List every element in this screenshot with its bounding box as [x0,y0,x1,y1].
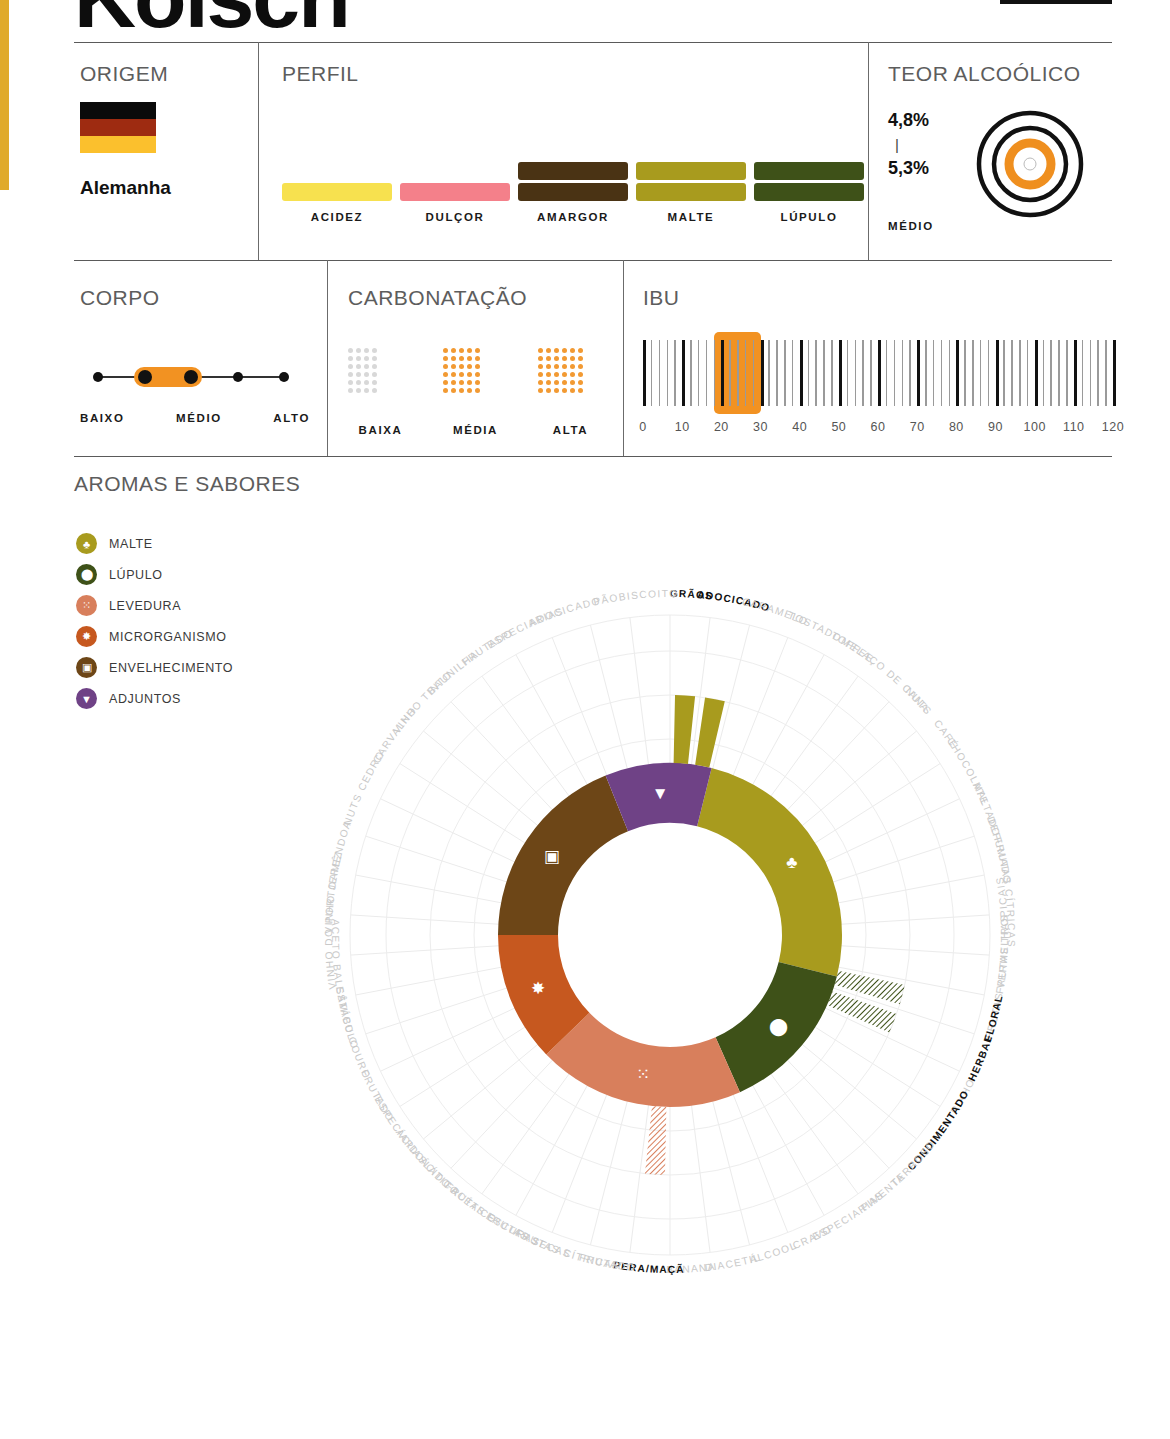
wheel-spoke[interactable] [695,698,725,768]
wheel-spoke[interactable] [645,1106,666,1175]
adjunct-icon: ▼ [76,688,97,709]
carbonatacao-level[interactable]: MÉDIA [443,348,508,436]
carbonatacao-dot [372,372,377,377]
ibu-tick-label: 30 [753,420,768,434]
carbonatacao-dot [348,380,353,385]
carbonatacao-dot [475,356,480,361]
ibu-tick [1003,340,1005,406]
perfil-bar-segment [400,183,510,201]
ibu-tick [847,340,849,406]
ibu-tick [1082,340,1084,406]
origem-title: ORIGEM [80,62,255,86]
wheel-descriptor-label[interactable]: ADOCICADO [527,595,601,628]
ibu-tick-label: 90 [988,420,1003,434]
carbonatacao-dot [554,348,559,353]
corpo-section: CORPO BAIXOMÉDIOALTO [80,286,328,310]
ibu-tick [808,340,810,406]
ibu-scale[interactable] [643,332,1123,414]
carbonatacao-label: BAIXA [348,424,413,436]
ibu-tick [729,340,731,406]
ibu-tick [980,340,982,406]
carbonatacao-dot [348,388,353,393]
carbonatacao-label: MÉDIA [443,424,508,436]
carbonatacao-level[interactable]: BAIXA [348,348,413,436]
carbonatacao-dot [443,364,448,369]
wheel-descriptor-label[interactable]: BISCOITO [618,588,679,603]
carbonatacao-dot [546,364,551,369]
ibu-tick-label: 110 [1063,420,1084,434]
wheel-spoke[interactable] [674,695,695,764]
carbonatacao-dot-grid [348,348,413,410]
wheel-family-levedura[interactable] [546,1013,740,1107]
perfil-bar-segment [518,162,628,180]
wheel-descriptor-label[interactable]: CRAVO [791,1223,834,1251]
perfil-bars: ACIDEZDULÇORAMARGORMALTELÚPULO [282,162,864,223]
ibu-tick [831,340,833,406]
carbonatacao-dot [554,364,559,369]
corpo-scale[interactable] [94,364,286,390]
divider-top [74,42,1112,43]
ibu-tick [941,340,943,406]
carbonatacao-dot [554,380,559,385]
legend-label: ADJUNTOS [109,692,181,706]
carbonatacao-level[interactable]: ALTA [538,348,603,436]
corpo-point-1[interactable] [93,372,103,382]
carbonatacao-dot [562,356,567,361]
corpo-point-2[interactable] [138,370,152,384]
ibu-tick [933,340,935,406]
wheel-descriptor-label[interactable]: AMÊNDOA [327,819,353,881]
wheel-descriptor-label[interactable]: NUTS [903,685,934,717]
ibu-tick-label: 50 [831,420,846,434]
carbonatacao-dot [554,356,559,361]
ibu-tick [768,340,770,406]
accent-strip [0,0,9,190]
perfil-item: MALTE [636,162,746,223]
wheel-descriptor-label[interactable]: HERBAL [966,1033,994,1083]
hop-icon: ⬤ [769,1017,788,1037]
carbonatacao-dot [364,356,369,361]
ibu-tick [925,340,927,406]
carbonatacao-dot [570,348,575,353]
carbonatacao-dot [356,348,361,353]
corpo-point-4[interactable] [233,372,243,382]
corpo-label: ALTO [273,412,310,424]
wheel-family-envelhecimento[interactable] [498,776,628,935]
carbonatacao-dot [546,372,551,377]
divider-teor [868,42,869,260]
carbonatacao-dot [364,348,369,353]
ibu-tick [1035,340,1038,406]
ibu-tick [792,340,794,406]
aroma-wheel-chart[interactable]: ♣⬤⁙✸▣▼GRÃOSADOCICADOCARAMELOTOSTADOTOFFE… [205,470,1135,1400]
carbonatacao-dot [562,364,567,369]
carbonatacao-dot [578,372,583,377]
corpo-point-5[interactable] [279,372,289,382]
carbonatacao-dot [570,372,575,377]
wheel-descriptor-label[interactable]: NUTS [341,792,364,827]
ibu-tick [917,340,920,406]
wheel-descriptor-label[interactable]: PÃO [592,592,619,608]
carbonatacao-dot [443,356,448,361]
carbonatacao-dot [467,372,472,377]
divider-carb [623,260,624,456]
ibu-tick [1011,340,1013,406]
wheel-family-malte[interactable] [697,768,842,977]
origem-country: Alemanha [80,177,255,199]
corpo-point-3[interactable] [184,370,198,384]
carbonatacao-dot [459,388,464,393]
legend-label: LEVEDURA [109,599,181,613]
ibu-tick [870,340,872,406]
carbonatacao-dot [538,372,543,377]
perfil-item-label: AMARGOR [518,211,628,223]
ibu-tick [721,340,724,406]
carbonatacao-label: ALTA [538,424,603,436]
ibu-tick [1090,340,1092,406]
carbonatacao-dot [570,364,575,369]
ibu-tick [956,340,959,406]
malt-icon: ♣ [76,533,97,554]
perfil-item-label: MALTE [636,211,746,223]
ibu-tick [996,340,999,406]
carbonatacao-dot [356,380,361,385]
ibu-tick [815,340,817,406]
carbonatacao-dot [538,356,543,361]
carbonatacao-dot [562,372,567,377]
